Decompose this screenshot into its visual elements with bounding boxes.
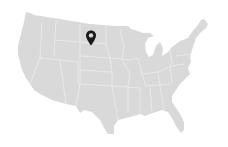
map-pin-icon [85,30,97,46]
location-marker[interactable] [85,30,97,46]
contiguous-us-shape [18,12,208,134]
us-map [0,0,228,147]
us-map-outline [0,0,228,147]
